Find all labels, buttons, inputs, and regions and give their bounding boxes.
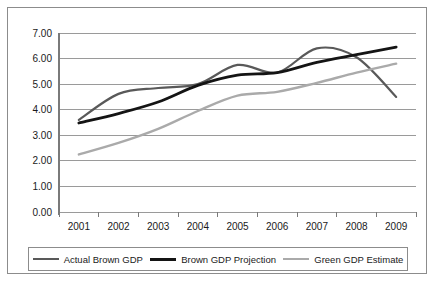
x-tick-label: 2005	[226, 221, 249, 232]
y-tick-label: 1.00	[33, 181, 53, 192]
gridlines	[59, 33, 416, 212]
y-tick-label: 3.00	[33, 130, 53, 141]
x-tick-label: 2009	[385, 221, 408, 232]
x-axis-tick-labels: 200120022003200420052006200720082009	[68, 221, 408, 232]
x-tick-label: 2004	[187, 221, 210, 232]
x-tick-label: 2006	[266, 221, 289, 232]
y-tick-label: 4.00	[33, 104, 53, 115]
legend-label-brown-gdp-projection: Brown GDP Projection	[181, 254, 276, 265]
legend-swatch-brown-gdp-projection	[150, 258, 176, 261]
x-tick-label: 2008	[345, 221, 368, 232]
legend-item-brown-gdp-projection[interactable]: Brown GDP Projection	[150, 254, 276, 265]
x-tick-label: 2002	[107, 221, 130, 232]
legend-item-actual-brown-gdp[interactable]: Actual Brown GDP	[33, 254, 143, 265]
y-tick-label: 2.00	[33, 155, 53, 166]
y-axis-tick-labels: 0.001.002.003.004.005.006.007.00	[33, 28, 53, 218]
plot-area: 0.001.002.003.004.005.006.007.00 2001200…	[8, 8, 428, 240]
series-line-green-gdp-estimate	[79, 64, 396, 155]
legend-label-green-gdp-estimate: Green GDP Estimate	[314, 254, 403, 265]
x-axis-ticks	[59, 212, 416, 217]
chart-container: 0.001.002.003.004.005.006.007.00 2001200…	[7, 7, 427, 274]
y-tick-label: 5.00	[33, 79, 53, 90]
line-chart-svg: 0.001.002.003.004.005.006.007.00 2001200…	[8, 8, 428, 240]
x-tick-label: 2007	[306, 221, 329, 232]
legend-swatch-actual-brown-gdp	[33, 258, 59, 260]
y-tick-label: 7.00	[33, 28, 53, 39]
x-tick-label: 2001	[68, 221, 91, 232]
y-tick-label: 6.00	[33, 53, 53, 64]
x-tick-label: 2003	[147, 221, 170, 232]
y-tick-label: 0.00	[33, 207, 53, 218]
legend-label-actual-brown-gdp: Actual Brown GDP	[64, 254, 143, 265]
data-series-group	[79, 47, 396, 154]
legend-swatch-green-gdp-estimate	[283, 258, 309, 260]
legend-item-green-gdp-estimate[interactable]: Green GDP Estimate	[283, 254, 403, 265]
chart-legend: Actual Brown GDP Brown GDP Projection Gr…	[28, 247, 408, 271]
